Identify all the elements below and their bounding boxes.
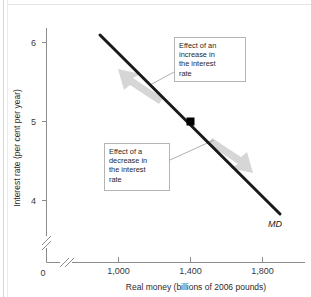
x-axis-break-icon <box>60 258 74 267</box>
callout-decrease: Effect of a decrease in the interest rat… <box>104 143 170 191</box>
y-axis-break-icon <box>42 236 51 250</box>
x-tick-label-1800: 1,800 <box>251 266 274 276</box>
leader-line-increase <box>150 72 174 85</box>
money-demand-chart: 6 5 4 Interest rate (per cent per year) … <box>0 0 311 297</box>
y-tick-label-4: 4 <box>31 196 36 206</box>
equilibrium-point <box>187 118 195 126</box>
origin-label: 0 <box>40 268 45 278</box>
x-tick-label-1400: 1,400 <box>179 266 202 276</box>
x-tick-label-1000: 1,000 <box>107 266 130 276</box>
decrease-arrow <box>208 138 253 173</box>
callout-increase: Effect of an increase in the interest ra… <box>174 37 246 82</box>
y-tick-label-5: 5 <box>31 117 36 127</box>
md-curve-label: MD <box>268 219 282 229</box>
y-tick-label-6: 6 <box>31 38 36 48</box>
x-axis-title: Real money (billions of 2006 pounds) <box>126 282 267 292</box>
y-axis-title: Interest rate (per cent per year) <box>12 89 22 207</box>
